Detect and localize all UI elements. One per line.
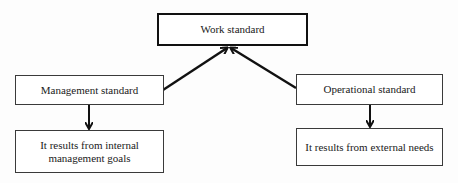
external-needs-node: It results from external needs [296,128,443,166]
work-standard-label: Work standard [200,23,264,36]
internal-goals-node: It results from internal management goal… [15,130,164,173]
work-standard-node: Work standard [157,13,308,46]
diagram-canvas: Work standard Management standard Operat… [0,0,458,183]
operational-standard-node: Operational standard [296,74,443,105]
arrow-management-to-work [163,48,227,90]
internal-goals-line2: management goals [48,152,130,165]
arrow-operational-to-work [231,48,296,88]
management-standard-label: Management standard [41,84,138,97]
external-needs-label: It results from external needs [305,141,433,154]
operational-standard-label: Operational standard [324,83,416,96]
internal-goals-line1: It results from internal [40,139,139,152]
management-standard-node: Management standard [15,75,164,105]
